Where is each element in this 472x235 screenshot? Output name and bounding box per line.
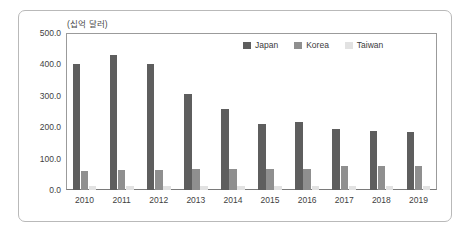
legend-entry: Taiwan bbox=[345, 40, 383, 50]
bar bbox=[89, 186, 97, 190]
legend-swatch-icon bbox=[243, 42, 251, 49]
bar bbox=[349, 186, 357, 190]
bar bbox=[332, 129, 340, 190]
chart-legend: JapanKoreaTaiwan bbox=[243, 40, 383, 50]
bar bbox=[407, 132, 415, 190]
bar bbox=[266, 169, 274, 190]
bar bbox=[312, 186, 320, 190]
bar bbox=[370, 131, 378, 190]
bar bbox=[274, 186, 282, 190]
legend-label: Korea bbox=[306, 40, 329, 50]
bar bbox=[126, 186, 134, 190]
bar bbox=[192, 169, 200, 190]
bar bbox=[303, 169, 311, 190]
bar bbox=[378, 166, 386, 190]
legend-entry: Japan bbox=[243, 40, 278, 50]
bar bbox=[155, 170, 163, 190]
bar bbox=[81, 171, 89, 190]
legend-entry: Korea bbox=[294, 40, 329, 50]
bar bbox=[147, 64, 155, 190]
bars-layer bbox=[0, 0, 472, 235]
bar bbox=[73, 64, 81, 190]
bar bbox=[415, 166, 423, 190]
bar bbox=[341, 166, 349, 190]
chart-figure: (십억 달러) 0.0100.0200.0300.0400.0500.0 201… bbox=[0, 0, 472, 235]
bar bbox=[163, 186, 171, 190]
bar bbox=[258, 124, 266, 190]
legend-label: Japan bbox=[255, 40, 278, 50]
bar bbox=[423, 186, 431, 190]
legend-label: Taiwan bbox=[357, 40, 383, 50]
legend-swatch-icon bbox=[294, 42, 302, 49]
bar bbox=[237, 186, 245, 190]
legend-swatch-icon bbox=[345, 42, 353, 49]
bar bbox=[295, 122, 303, 190]
bar bbox=[221, 109, 229, 190]
bar bbox=[110, 55, 118, 190]
bar bbox=[229, 169, 237, 190]
bar bbox=[184, 94, 192, 190]
bar bbox=[118, 170, 126, 190]
bar bbox=[200, 186, 208, 190]
bar bbox=[386, 186, 394, 190]
